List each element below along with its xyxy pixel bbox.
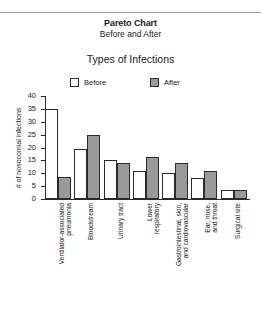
bar-before <box>104 160 117 199</box>
legend-swatch-after <box>150 78 159 87</box>
x-axis-category-label: Surgical site <box>234 203 241 295</box>
y-axis-tick: 0 <box>41 199 45 200</box>
x-axis-category-label: Gastrointestinal, skin, and cardiovascul… <box>175 203 190 295</box>
legend-item-before[interactable]: Before <box>70 78 106 87</box>
x-axis-line <box>45 199 250 200</box>
y-axis-title-text: # of nosocomial infections <box>15 108 23 189</box>
legend-label: Before <box>84 78 106 87</box>
legend-label: After <box>164 78 180 87</box>
bar-group <box>221 96 250 199</box>
y-axis-tick-label: 10 <box>28 169 36 177</box>
bar-before <box>133 171 146 199</box>
bar-after <box>87 135 100 199</box>
x-axis-category-label: Bloodstream <box>87 203 94 295</box>
y-axis-tick-label: 20 <box>28 144 36 152</box>
bar-before <box>191 178 204 199</box>
bar-after <box>58 177 71 199</box>
y-axis-tick-label: 35 <box>28 105 36 113</box>
legend-item-after[interactable]: After <box>150 78 180 87</box>
bar-after <box>204 171 217 199</box>
bar-group <box>104 96 133 199</box>
bar-after <box>234 190 247 199</box>
top-divider <box>0 12 261 13</box>
y-axis-title: # of nosocomial infections <box>14 96 24 200</box>
bar-after <box>146 157 159 199</box>
y-axis-tick-label: 40 <box>28 92 36 100</box>
plot-area: 4035302520151050 <box>45 96 250 199</box>
bar-group <box>162 96 191 199</box>
chart-subtitle: Before and After <box>0 29 261 40</box>
bar-before <box>45 109 58 199</box>
chart-legend: BeforeAfter <box>70 78 220 91</box>
chart-title: Pareto Chart <box>0 18 261 29</box>
title-block: Pareto Chart Before and After <box>0 18 261 40</box>
legend-swatch-before <box>70 78 79 87</box>
x-axis-category-label: Lower respiratory <box>146 203 161 295</box>
bar-before <box>74 149 87 199</box>
plot-heading: Types of Infections <box>0 53 261 66</box>
bar-group <box>191 96 220 199</box>
bar-group <box>133 96 162 199</box>
bar-group <box>74 96 103 199</box>
bar-before <box>162 173 175 199</box>
x-axis-category-label: Ventilator-associated pneumonia <box>58 203 73 295</box>
bar-after <box>117 163 130 199</box>
x-axis-category-label: Ear, nose, and throat <box>204 203 219 295</box>
y-axis-tick-label: 25 <box>28 131 36 139</box>
x-axis-category-label: Urinary tract <box>117 203 124 295</box>
y-axis-tick-label: 0 <box>32 195 36 203</box>
bar-before <box>221 190 234 199</box>
bar-after <box>175 163 188 199</box>
bar-group <box>45 96 74 199</box>
y-axis-tick-label: 5 <box>32 182 36 190</box>
y-axis-tick-label: 30 <box>28 118 36 126</box>
y-axis-tick-label: 15 <box>28 156 36 164</box>
